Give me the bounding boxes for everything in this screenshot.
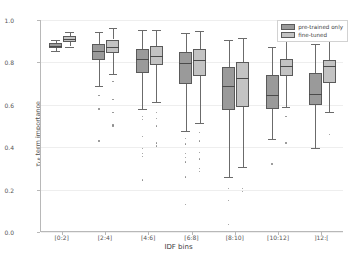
plot-area xyxy=(40,20,343,232)
y-axis-tick-label: 1.0 xyxy=(0,17,14,24)
legend: pre-trained only fine-tuned xyxy=(277,20,348,42)
y-axis-tick-label: 0.6 xyxy=(0,101,14,108)
legend-item-fine-tuned: fine-tuned xyxy=(281,32,343,38)
legend-label-pre-trained-only: pre-trained only xyxy=(298,24,343,30)
x-axis-tick-label: [2:4] xyxy=(98,234,112,241)
x-axis-tick-label: [4:6] xyxy=(141,234,155,241)
y-axis-tick-label: 0.4 xyxy=(0,144,14,151)
y-axis-tick-label: 0.8 xyxy=(0,59,14,66)
legend-label-fine-tuned: fine-tuned xyxy=(298,32,327,38)
x-axis-tick-label: [10:12] xyxy=(267,234,289,241)
x-axis-tick-label: [8:10] xyxy=(226,234,244,241)
box-plot-figure: τLP term importance 0.00.20.40.60.81.0 [… xyxy=(0,0,357,267)
box-plot-series-layer xyxy=(41,20,343,231)
x-axis-label: IDF bins xyxy=(0,243,357,251)
x-axis-tick-label: ]12:[ xyxy=(314,234,328,241)
outlier-point xyxy=(329,134,330,135)
x-axis-tick-label: [6:8] xyxy=(184,234,198,241)
box-body xyxy=(323,60,336,82)
legend-swatch-fine-tuned xyxy=(281,32,295,38)
box-plot-box xyxy=(41,20,343,231)
median-line xyxy=(323,66,336,67)
legend-swatch-pre-trained-only xyxy=(281,24,295,30)
whisker-lower xyxy=(329,83,330,113)
whisker-cap-lower xyxy=(325,112,334,113)
whisker-upper xyxy=(329,41,330,60)
legend-item-pre-trained-only: pre-trained only xyxy=(281,24,343,30)
y-axis-tick-mark xyxy=(37,232,40,233)
y-axis-tick-label: 0.0 xyxy=(0,229,14,236)
y-axis-tick-label: 0.2 xyxy=(0,186,14,193)
x-axis-tick-label: [0:2] xyxy=(54,234,68,241)
